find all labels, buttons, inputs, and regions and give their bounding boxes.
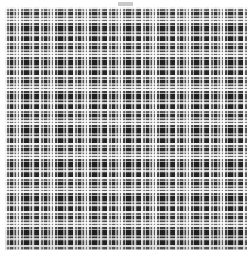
- plaid-fabric-swatch: [5, 7, 247, 250]
- thread-grain-texture: [5, 7, 247, 250]
- plaid-swatch-screenshot: [0, 0, 252, 253]
- top-edge-marker: [118, 2, 133, 6]
